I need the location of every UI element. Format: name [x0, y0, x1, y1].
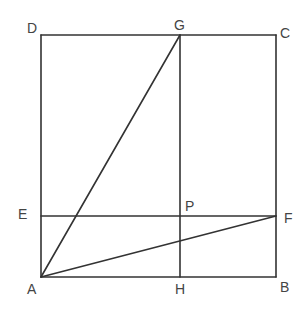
label-C: C — [280, 25, 290, 41]
label-E: E — [18, 206, 27, 222]
label-G: G — [174, 17, 185, 33]
label-B: B — [280, 279, 289, 295]
label-H: H — [175, 281, 185, 297]
label-A: A — [27, 281, 37, 297]
label-D: D — [27, 20, 37, 36]
segment-AF — [41, 216, 276, 277]
label-F: F — [284, 210, 293, 226]
geometry-diagram: D G C E P F A H B — [0, 0, 307, 309]
label-P: P — [185, 198, 194, 214]
segment-AG — [41, 35, 180, 277]
